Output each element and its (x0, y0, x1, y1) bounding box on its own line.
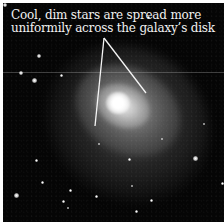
star (95, 195, 98, 198)
star (19, 71, 23, 75)
star (98, 143, 100, 145)
caption: Cool, dim stars are spread more uniformi… (11, 9, 215, 35)
scan-artifact-line (3, 72, 224, 73)
star (37, 54, 41, 58)
star (60, 74, 63, 77)
star (150, 199, 153, 202)
caption-line-2: uniformily across the galaxy’s disk (11, 22, 215, 35)
star (203, 123, 205, 125)
figure-frame: Cool, dim stars are spread more uniformi… (0, 0, 224, 222)
galaxy-photo (3, 3, 224, 222)
star (62, 200, 65, 203)
star (135, 210, 138, 213)
star (35, 159, 38, 162)
star (3, 3, 7, 7)
star (131, 185, 133, 187)
star (32, 78, 37, 83)
photo-grain (3, 3, 224, 222)
star (161, 138, 163, 140)
star (14, 193, 19, 198)
star (41, 181, 44, 184)
star (193, 156, 198, 161)
star (67, 207, 69, 209)
star (221, 182, 224, 185)
star (69, 189, 72, 192)
star (128, 158, 131, 161)
